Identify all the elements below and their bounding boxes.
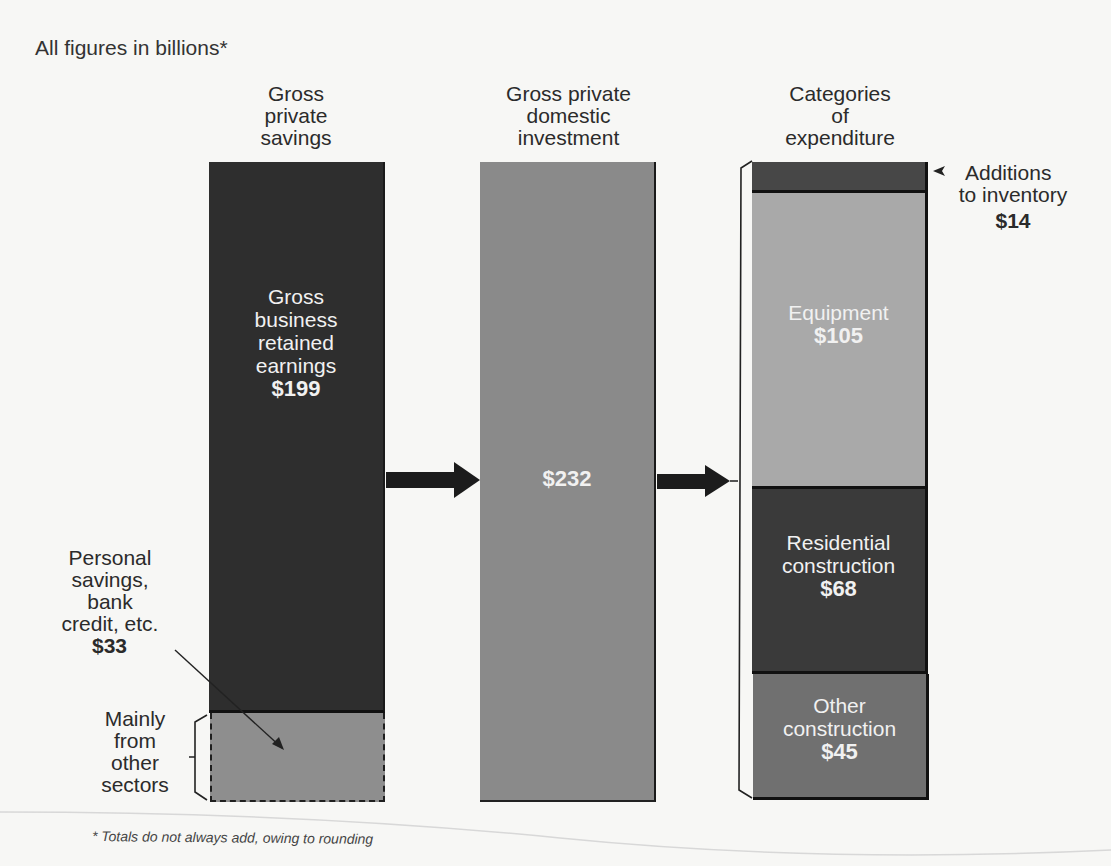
leader-line — [175, 650, 282, 748]
bracket-categories — [739, 161, 752, 798]
arrow-right-icon — [657, 465, 738, 497]
footnote: * Totals do not always add, owing to rou… — [92, 828, 373, 847]
arrow-right-icon — [386, 462, 480, 498]
bracket-other-sectors — [189, 715, 207, 800]
leader-arrowhead-icon — [272, 737, 284, 750]
pointer-arrowhead-icon — [933, 166, 945, 176]
connectors-overlay — [0, 0, 1111, 866]
